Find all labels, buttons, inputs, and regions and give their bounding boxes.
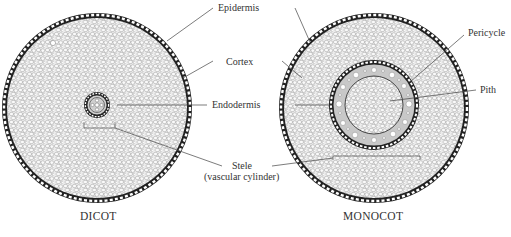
monocot-pith	[345, 76, 403, 134]
panel-title-dicot: DICOT	[80, 210, 117, 222]
label-stele: Stele	[232, 160, 252, 171]
label-endodermis: Endodermis	[212, 99, 260, 110]
label-pith: Pith	[480, 84, 496, 95]
dicot-root	[2, 13, 192, 203]
root-cross-section-diagram	[0, 0, 511, 237]
label-epidermis: Epidermis	[218, 2, 259, 13]
panel-title-monocot: MONOCOT	[343, 210, 403, 222]
label-stele-subtitle: (vascular cylinder)	[204, 171, 279, 182]
label-pericycle: Pericycle	[468, 27, 505, 38]
dicot-stele	[84, 92, 110, 118]
monocot-root	[279, 13, 469, 203]
label-cortex: Cortex	[226, 56, 253, 67]
